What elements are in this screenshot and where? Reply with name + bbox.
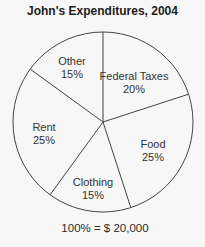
slice-percent: 15% xyxy=(58,68,86,81)
slice-percent: 25% xyxy=(32,134,55,147)
slice-name: Other xyxy=(58,55,86,68)
chart-caption-total: 100% = $ 20,000 xyxy=(0,222,205,234)
slice-percent: 15% xyxy=(73,189,113,202)
slice-name: Clothing xyxy=(73,176,113,189)
slice-percent: 25% xyxy=(140,151,165,164)
slice-label-other: Other 15% xyxy=(58,55,86,81)
slice-name: Rent xyxy=(32,121,55,134)
slice-label-rent: Rent 25% xyxy=(32,121,55,147)
pie-chart xyxy=(0,0,205,247)
slice-name: Food xyxy=(140,138,165,151)
slice-label-clothing: Clothing 15% xyxy=(73,176,113,202)
slice-percent: 20% xyxy=(100,83,169,96)
slice-label-federal-taxes: Federal Taxes 20% xyxy=(100,70,169,96)
slice-label-food: Food 25% xyxy=(140,138,165,164)
slice-name: Federal Taxes xyxy=(100,70,169,83)
slice-divider-line xyxy=(103,94,189,122)
